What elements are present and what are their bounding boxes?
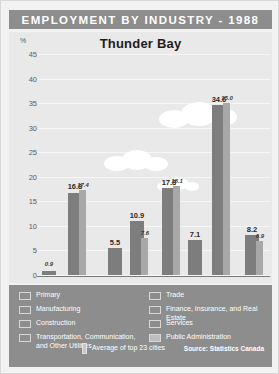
legend-label-primary: Primary — [36, 291, 60, 300]
y-axis-tick-35: 35 — [19, 99, 37, 108]
gridline-25 — [37, 152, 270, 153]
legend-average-row: Average of top 23 cities — [82, 343, 165, 354]
y-axis-tick-45: 45 — [19, 50, 37, 59]
bar-value-city-0: 0.9 — [45, 261, 53, 267]
legend-label-average: Average of top 23 cities — [92, 344, 165, 353]
legend-swatch-primary — [19, 292, 31, 300]
legend-item-trade: Trade — [149, 291, 274, 300]
bar-city-5 — [188, 240, 202, 275]
bar-city-2 — [108, 248, 122, 275]
bar-value-average-3: 7.6 — [141, 230, 149, 236]
plot-canvas: 0510152025303540450.916.817.45.510.97.61… — [9, 32, 272, 283]
source-note: Source: Statistics Canada — [184, 345, 264, 352]
legend-swatch-services — [149, 320, 161, 328]
gridline-0 — [37, 275, 270, 276]
legend-swatch-construction — [19, 320, 31, 328]
bar-value-average-1: 17.4 — [77, 182, 89, 188]
gridline-40 — [37, 79, 270, 80]
y-axis-tick-40: 40 — [19, 74, 37, 83]
gridline-45 — [37, 54, 270, 55]
bar-average-4 — [173, 186, 180, 275]
y-axis-tick-20: 20 — [19, 172, 37, 181]
legend-label-construction: Construction — [36, 319, 75, 328]
legend-item-public-administration: Public Administration — [149, 333, 274, 342]
y-axis-tick-30: 30 — [19, 123, 37, 132]
bar-value-average-4: 18.1 — [171, 178, 183, 184]
legend-label-manufacturing: Manufacturing — [36, 305, 80, 314]
bar-average-3 — [141, 238, 148, 275]
legend-swatch-average — [82, 343, 87, 354]
y-axis-tick-25: 25 — [19, 148, 37, 157]
chart-legend: Primary Manufacturing Construction Trans… — [9, 285, 272, 367]
bar-value-city-2: 5.5 — [110, 238, 120, 247]
gridline-20 — [37, 177, 270, 178]
gridline-30 — [37, 128, 270, 129]
legend-label-services: Services — [166, 319, 193, 328]
plot-area: Thunder Bay % 0510152025303540450.916.81… — [9, 32, 272, 283]
bar-city-0 — [42, 271, 56, 275]
legend-swatch-transportation — [19, 334, 31, 342]
bar-value-city-5: 7.1 — [190, 230, 200, 239]
legend-label-public-administration: Public Administration — [166, 333, 231, 342]
legend-swatch-public-administration — [149, 334, 161, 342]
chart-page: EMPLOYMENT BY INDUSTRY - 1988 Thunder Ba… — [0, 0, 279, 374]
legend-item-services: Services — [149, 319, 274, 328]
bar-value-city-3: 10.9 — [130, 211, 145, 220]
y-axis-tick-0: 0 — [19, 271, 37, 280]
legend-swatch-finance — [149, 306, 161, 314]
bar-average-1 — [79, 190, 86, 275]
legend-item-primary: Primary — [19, 291, 139, 300]
y-axis-tick-10: 10 — [19, 221, 37, 230]
legend-item-construction: Construction — [19, 319, 139, 328]
bar-value-average-7: 6.9 — [256, 233, 264, 239]
bar-average-7 — [256, 241, 263, 275]
legend-label-trade: Trade — [166, 291, 184, 300]
y-axis-tick-15: 15 — [19, 197, 37, 206]
gridline-35 — [37, 103, 270, 104]
bar-value-average-6: 35.0 — [221, 95, 233, 101]
legend-swatch-manufacturing — [19, 306, 31, 314]
legend-item-manufacturing: Manufacturing — [19, 305, 139, 314]
title-banner: EMPLOYMENT BY INDUSTRY - 1988 — [9, 10, 272, 29]
y-axis-tick-5: 5 — [19, 246, 37, 255]
legend-swatch-trade — [149, 292, 161, 300]
banner-title: EMPLOYMENT BY INDUSTRY - 1988 — [22, 14, 260, 26]
bar-average-6 — [223, 103, 230, 275]
